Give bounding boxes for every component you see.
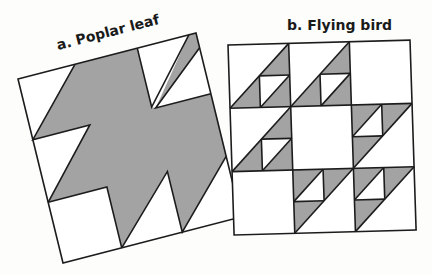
bird-block-background: [228, 40, 416, 235]
poplar-leaf-block: [18, 33, 241, 263]
quilt-figure: a. Poplar leaf b. Flying bird: [0, 0, 432, 275]
flying-bird-block: [228, 40, 416, 235]
panel-poplar-leaf: a. Poplar leaf: [18, 11, 241, 263]
panel-flying-bird: b. Flying bird: [228, 17, 416, 235]
flying-bird-title: b. Flying bird: [287, 17, 392, 33]
